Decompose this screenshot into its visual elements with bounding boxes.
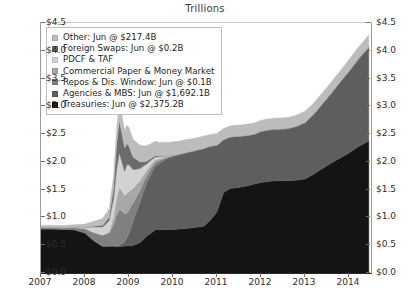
y-tick-label-right-4: $2.5 xyxy=(376,128,410,138)
y-tick-mark-left-2 xyxy=(41,78,45,79)
y-tick-mark-left-9 xyxy=(41,272,45,273)
y-tick-mark-right-2 xyxy=(366,78,370,79)
legend-item-label: Repos & Dis. Window: Jun @ $0.1B xyxy=(63,77,212,88)
legend-item-0[interactable]: Other: Jun @ $217.4B xyxy=(52,32,214,43)
y-tick-label-right-7: $1.0 xyxy=(376,211,410,221)
legend-swatch-agencies-mbs xyxy=(52,91,58,97)
y-tick-mark-left-7 xyxy=(41,216,45,217)
y-tick-mark-left-6 xyxy=(41,189,45,190)
y-tick-mark-left-0 xyxy=(41,22,45,23)
legend-item-label: PDCF & TAF xyxy=(63,54,113,65)
legend-item-1[interactable]: Foreign Swaps: Jun @ $0.2B xyxy=(52,43,214,54)
x-tick-label-2010: 2010 xyxy=(152,277,192,287)
x-tick-mark-2014 xyxy=(348,273,349,277)
y-tick-mark-right-6 xyxy=(366,189,370,190)
y-tick-label-right-6: $1.5 xyxy=(376,184,410,194)
chart-legend: Other: Jun @ $217.4BForeign Swaps: Jun @… xyxy=(46,27,222,115)
x-tick-mark-2013 xyxy=(304,273,305,277)
x-tick-label-2007: 2007 xyxy=(20,277,60,287)
y-tick-label-right-2: $3.5 xyxy=(376,73,410,83)
y-tick-mark-right-1 xyxy=(366,50,370,51)
chart-title: Trillions xyxy=(0,3,410,14)
y-tick-mark-right-7 xyxy=(366,216,370,217)
y-tick-label-right-8: $0.5 xyxy=(376,239,410,249)
y-tick-mark-left-3 xyxy=(41,105,45,106)
x-tick-mark-2012 xyxy=(260,273,261,277)
x-tick-label-2009: 2009 xyxy=(108,277,148,287)
y-tick-mark-right-5 xyxy=(366,161,370,162)
legend-item-5[interactable]: Agencies & MBS: Jun @ $1,692.1B xyxy=(52,88,214,99)
x-tick-label-2008: 2008 xyxy=(64,277,104,287)
y-tick-mark-right-4 xyxy=(366,133,370,134)
y-tick-mark-right-0 xyxy=(366,22,370,23)
legend-item-label: Agencies & MBS: Jun @ $1,692.1B xyxy=(63,88,210,99)
y-tick-label-right-0: $4.5 xyxy=(376,17,410,27)
y-tick-mark-left-8 xyxy=(41,244,45,245)
y-tick-mark-left-5 xyxy=(41,161,45,162)
y-tick-mark-right-3 xyxy=(366,105,370,106)
legend-item-3[interactable]: Commercial Paper & Money Market xyxy=(52,66,214,77)
legend-item-label: Treasuries: Jun @ $2,375.2B xyxy=(63,99,184,110)
x-tick-mark-2008 xyxy=(84,273,85,277)
legend-item-2[interactable]: PDCF & TAF xyxy=(52,54,214,65)
x-tick-label-2011: 2011 xyxy=(196,277,236,287)
x-tick-mark-2011 xyxy=(216,273,217,277)
legend-item-label: Other: Jun @ $217.4B xyxy=(63,32,156,43)
x-tick-label-2014: 2014 xyxy=(328,277,368,287)
y-tick-mark-left-4 xyxy=(41,133,45,134)
x-tick-mark-2009 xyxy=(128,273,129,277)
legend-item-4[interactable]: Repos & Dis. Window: Jun @ $0.1B xyxy=(52,77,214,88)
x-tick-label-2013: 2013 xyxy=(284,277,324,287)
y-tick-mark-right-8 xyxy=(366,244,370,245)
x-tick-label-2012: 2012 xyxy=(240,277,280,287)
y-tick-label-right-1: $4.0 xyxy=(376,45,410,55)
legend-swatch-other xyxy=(52,35,58,41)
chart-root: Trillions Other: Jun @ $217.4BForeign Sw… xyxy=(0,0,410,299)
y-tick-label-right-9: $0.0 xyxy=(376,267,410,277)
legend-swatch-pdcf-taf xyxy=(52,57,58,63)
legend-item-label: Foreign Swaps: Jun @ $0.2B xyxy=(63,43,183,54)
x-tick-mark-2010 xyxy=(172,273,173,277)
legend-item-label: Commercial Paper & Money Market xyxy=(63,66,214,77)
legend-item-6[interactable]: Treasuries: Jun @ $2,375.2B xyxy=(52,99,214,110)
y-tick-mark-right-9 xyxy=(366,272,370,273)
y-tick-label-right-3: $3.0 xyxy=(376,100,410,110)
y-tick-label-right-5: $2.0 xyxy=(376,156,410,166)
x-tick-mark-2007 xyxy=(40,273,41,277)
y-tick-mark-left-1 xyxy=(41,50,45,51)
